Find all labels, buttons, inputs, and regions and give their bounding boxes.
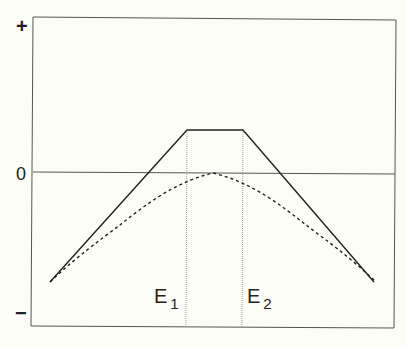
y-label-zero: 0 (16, 164, 26, 185)
e1-label: E1 (154, 285, 179, 312)
e1-label-subscript: 1 (170, 295, 178, 312)
e1-marker-line (186, 130, 187, 326)
e2-label-subscript: 2 (263, 295, 271, 312)
e2-label: E2 (247, 285, 272, 312)
y-label-minus: − (15, 302, 27, 325)
e2-label-text: E (247, 285, 260, 307)
y-label-plus: + (16, 15, 28, 38)
e2-marker-line (242, 130, 243, 327)
chart-plot (0, 0, 407, 347)
solid-curve (50, 130, 374, 282)
e1-label-text: E (154, 285, 167, 307)
